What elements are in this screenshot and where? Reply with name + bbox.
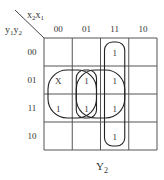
cell-value: 1: [112, 48, 117, 58]
column-variable-label: x2x1: [27, 9, 45, 22]
cell-value: 1: [84, 104, 89, 114]
cell-value: 1: [112, 132, 117, 142]
column-label: 11: [110, 24, 119, 34]
row-label: 11: [28, 103, 37, 113]
cell-value: 1: [84, 76, 89, 86]
kmap-grid: [44, 38, 157, 150]
map-caption: Y2: [96, 160, 108, 175]
row-labels: 00011110: [28, 47, 38, 141]
row-variable-label: y1y2: [5, 24, 23, 37]
dont-care-cell: X: [55, 76, 62, 86]
karnaugh-map: x2x1 y1y2 00011110 00011110 1X111111 Y2: [0, 0, 164, 180]
cell-value: 1: [112, 104, 117, 114]
row-label: 10: [28, 131, 38, 141]
column-label: 10: [138, 24, 148, 34]
row-label: 01: [28, 75, 37, 85]
cell-value: 1: [56, 104, 61, 114]
column-label: 00: [54, 24, 64, 34]
column-label: 01: [82, 24, 91, 34]
column-labels: 00011110: [54, 24, 148, 34]
cell-value: 1: [112, 76, 117, 86]
row-label: 00: [28, 47, 38, 57]
